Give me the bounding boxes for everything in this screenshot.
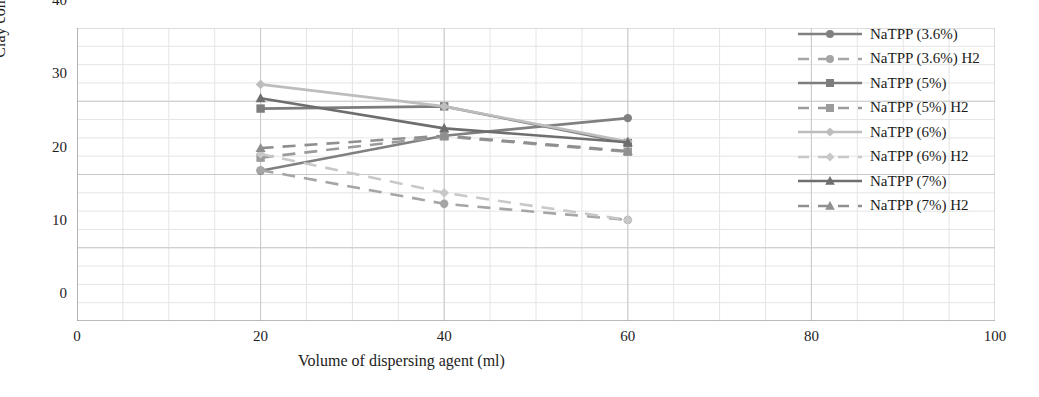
legend-item-1[interactable]: NaTPP (3.6%) H2: [797, 47, 980, 72]
legend-item-0[interactable]: NaTPP (3.6%): [797, 22, 980, 47]
chart-legend: NaTPP (3.6%)NaTPP (3.6%) H2NaTPP (5%)NaT…: [797, 22, 980, 218]
x-tick-80: 80: [804, 328, 819, 345]
y-tick-10: 10: [33, 211, 67, 228]
legend-label-2: NaTPP (5%): [870, 76, 947, 91]
legend-key-triangle-icon: [797, 174, 863, 188]
legend-label-6: NaTPP (7%): [870, 174, 947, 189]
legend-key-diamond-icon: [797, 150, 863, 164]
chart-figure: 40 30 20 10 0 Clay content (%) 0 20 40 6…: [0, 0, 1039, 397]
legend-key-triangle-icon: [797, 199, 863, 213]
legend-item-5[interactable]: NaTPP (6%) H2: [797, 145, 980, 170]
legend-key-diamond-icon: [797, 125, 863, 139]
legend-item-6[interactable]: NaTPP (7%): [797, 169, 980, 194]
legend-item-3[interactable]: NaTPP (5%) H2: [797, 96, 980, 121]
legend-label-3: NaTPP (5%) H2: [870, 100, 969, 115]
x-tick-40: 40: [437, 328, 452, 345]
y-tick-0: 0: [33, 285, 67, 302]
legend-key-circle-icon: [797, 52, 863, 66]
legend-item-4[interactable]: NaTPP (6%): [797, 120, 980, 145]
legend-label-1: NaTPP (3.6%) H2: [870, 51, 980, 66]
legend-item-7[interactable]: NaTPP (7%) H2: [797, 194, 980, 219]
legend-label-7: NaTPP (7%) H2: [870, 198, 969, 213]
x-axis-title-text: Volume of dispersing agent (ml): [298, 352, 505, 369]
y-tick-40: 40: [33, 0, 67, 9]
x-tick-60: 60: [620, 328, 635, 345]
legend-label-5: NaTPP (6%) H2: [870, 149, 969, 164]
y-axis-title: Clay content (%): [0, 0, 9, 118]
legend-key-circle-icon: [797, 27, 863, 41]
legend-label-4: NaTPP (6%): [870, 125, 947, 140]
x-tick-100: 100: [984, 328, 1007, 345]
legend-label-0: NaTPP (3.6%): [870, 27, 958, 42]
y-axis-ticks: 40 30 20 10 0: [33, 0, 67, 293]
x-tick-20: 20: [253, 328, 268, 345]
legend-key-square-icon: [797, 76, 863, 90]
y-tick-20: 20: [33, 138, 67, 155]
y-tick-30: 30: [33, 65, 67, 82]
legend-item-2[interactable]: NaTPP (5%): [797, 71, 980, 96]
x-axis-title: Volume of dispersing agent (ml): [0, 352, 1039, 370]
legend-key-square-icon: [797, 101, 863, 115]
x-tick-0: 0: [73, 328, 81, 345]
